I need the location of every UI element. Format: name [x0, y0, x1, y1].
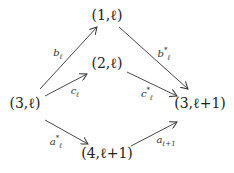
- edge-label-b: bℓ: [53, 47, 62, 61]
- edge-label-b-star: b*ℓ: [158, 46, 171, 61]
- edge-label-c-star: c*ℓ: [141, 86, 153, 101]
- node-3-l-plus-1: (3,ℓ+1): [174, 95, 226, 112]
- edge-label-a-next: aℓ+1: [156, 134, 175, 148]
- arrow-b: [40, 27, 97, 89]
- edge-label-c: cℓ: [71, 85, 80, 99]
- node-2-l: (2,ℓ): [92, 55, 123, 72]
- arrow-b-star: [119, 27, 188, 89]
- edge-label-a-star: a*ℓ: [50, 134, 62, 149]
- node-1-l: (1,ℓ): [92, 7, 123, 24]
- node-4-l-plus-1: (4,ℓ+1): [81, 145, 133, 162]
- node-3-l: (3,ℓ): [10, 95, 41, 112]
